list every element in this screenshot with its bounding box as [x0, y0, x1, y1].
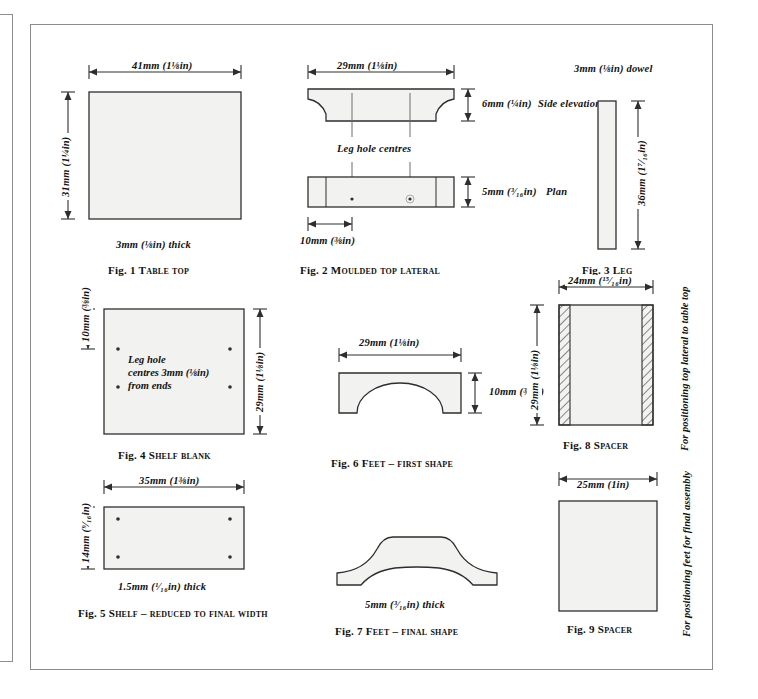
- fig4-note-line1: Leg hole: [128, 353, 209, 366]
- fig3-dowel-note: 3mm (⅛in) dowel: [574, 63, 653, 74]
- fig9-side-note: For positioning feet for final assembly: [681, 471, 692, 637]
- fig1-caption: Fig. 1 Table top: [108, 264, 189, 276]
- fig4-caption-title: Shelf blank: [149, 449, 211, 461]
- figure-moulded-top-lateral: 29mm (1⅛in) 6mm (¼in) Side elevation Leg…: [286, 59, 586, 299]
- fig3-length-dimension: 36mm (1⁷⁄₁₆in): [634, 137, 649, 209]
- fig5-width-dimension: 35mm (1⅜in): [136, 475, 203, 486]
- figure-leg: 3mm (⅛in) dowel 36mm (1⁷⁄₁₆in) Fig. 3 Le…: [556, 59, 716, 299]
- fig1-height-dimension: 31mm (1¼in): [58, 133, 73, 200]
- fig1-thickness-note: 3mm (⅛in) thick: [116, 239, 191, 250]
- fig8-caption-title: Spacer: [594, 439, 629, 451]
- fig5-caption-title: Shelf – reduced to final width: [109, 607, 268, 619]
- fig6-caption-title: Feet – first shape: [362, 457, 453, 469]
- fig5-caption: Fig. 5 Shelf – reduced to final width: [78, 607, 268, 619]
- drawing-page: 41mm (1⅛in) 31mm (1¼in) 3mm (⅛in) thick …: [0, 0, 758, 699]
- fig2-end-dimension: 10mm (⅜in): [300, 235, 355, 246]
- fig9-caption-title: Spacer: [598, 623, 633, 635]
- fig9-caption: Fig. 9 Spacer: [567, 623, 632, 635]
- fig8-width-dimension: 24mm (¹⁵⁄₁₆in): [565, 275, 635, 286]
- fig2-caption: Fig. 2 Moulded top lateral: [300, 264, 440, 276]
- fig2-elevation-dimension: 6mm (¼in): [482, 98, 532, 109]
- figure-shelf-blank: 10mm (⅜in) 29mm (1⅛in) Leg hole centres …: [56, 287, 306, 467]
- fig9-caption-number: Fig. 9: [567, 623, 595, 635]
- figure-shelf-final: 35mm (1⅜in) 14mm (⁹⁄₁₆in) 1.5mm (¹⁄₁₆in)…: [56, 473, 316, 633]
- fig7-thickness-note: 5mm (³⁄₁₆in) thick: [365, 599, 445, 610]
- figure-spacer-top-lateral: 24mm (¹⁵⁄₁₆in) 29mm (1⅛in) For positioni…: [501, 273, 716, 473]
- fig8-side-note: For positioning top lateral to table top: [679, 286, 690, 451]
- fig4-leg-hole-note: Leg hole centres 3mm (⅛in) from ends: [128, 353, 209, 392]
- fig2-drawing: [286, 59, 586, 259]
- page-bleed-strip: [0, 14, 13, 662]
- drawing-frame: 41mm (1⅛in) 31mm (1¼in) 3mm (⅛in) thick …: [30, 24, 713, 670]
- fig4-caption: Fig. 4 Shelf blank: [118, 449, 211, 461]
- fig4-note-line2: centres 3mm (⅛in): [128, 366, 209, 379]
- fig6-width-dimension: 29mm (1⅛in): [359, 337, 420, 348]
- fig7-caption: Fig. 7 Feet – final shape: [335, 625, 458, 637]
- fig2-caption-title: Moulded top lateral: [331, 264, 440, 276]
- fig7-caption-title: Feet – final shape: [366, 625, 459, 637]
- fig6-caption: Fig. 6 Feet – first shape: [331, 457, 453, 469]
- fig9-width-dimension: 25mm (1in): [577, 479, 629, 490]
- fig8-height-dimension: 29mm (1⅛in): [527, 346, 542, 413]
- fig4-caption-number: Fig. 4: [118, 449, 146, 461]
- figure-spacer-feet: 25mm (1in) For positioning feet for fina…: [501, 465, 716, 665]
- fig8-caption-number: Fig. 8: [563, 439, 591, 451]
- fig1-drawing: [56, 59, 286, 234]
- fig2-plan-dimension: 5mm (³⁄₁₆in): [482, 186, 537, 197]
- fig7-caption-number: Fig. 7: [335, 625, 363, 637]
- fig2-caption-number: Fig. 2: [300, 264, 328, 276]
- fig2-width-dimension: 29mm (1⅛in): [334, 60, 401, 71]
- fig4-right-dimension: 29mm (1⅛in): [252, 348, 267, 415]
- fig1-caption-number: Fig. 1: [108, 264, 136, 276]
- fig6-caption-number: Fig. 6: [331, 457, 359, 469]
- fig4-note-line3: from ends: [128, 379, 209, 392]
- fig2-leg-hole-note: Leg hole centres: [334, 143, 414, 154]
- fig1-caption-title: Table top: [139, 264, 189, 276]
- fig5-caption-number: Fig. 5: [78, 607, 106, 619]
- fig5-thickness-note: 1.5mm (¹⁄₁₆in) thick: [118, 581, 206, 592]
- figure-table-top: 41mm (1⅛in) 31mm (1¼in) 3mm (⅛in) thick …: [56, 59, 286, 299]
- fig5-height-dimension: 14mm (⁹⁄₁₆in): [78, 499, 93, 566]
- fig4-left-dimension: 10mm (⅜in): [78, 284, 93, 345]
- fig1-width-dimension: 41mm (1⅛in): [129, 60, 196, 71]
- fig8-caption: Fig. 8 Spacer: [563, 439, 628, 451]
